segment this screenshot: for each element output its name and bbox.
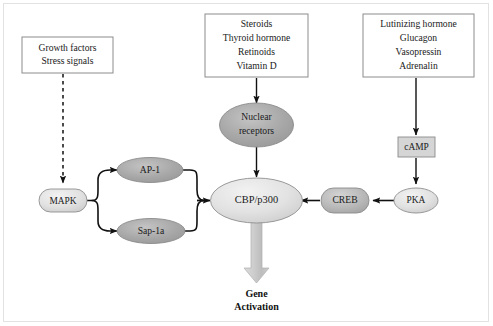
node-sap1a[interactable]: Sap-1a <box>117 219 185 244</box>
block-arrow-gene-activation <box>244 219 269 283</box>
steroids-line-3: Retinoids <box>238 46 275 57</box>
node-camp[interactable]: cAMP <box>398 137 435 157</box>
growth-factors-line-2: Stress signals <box>42 55 94 66</box>
steroids-line-1: Steroids <box>241 18 273 29</box>
node-camp-label: cAMP <box>404 142 428 152</box>
gene-activation-label: Gene Activation <box>234 288 279 312</box>
hormones-line-1: Lutinizing hormone <box>380 18 456 29</box>
node-pka[interactable]: PKA <box>394 188 438 213</box>
node-creb-label: CREB <box>332 194 357 205</box>
node-nuclear-receptors-label-line-2: receptors <box>239 125 274 136</box>
hormones-line-3: Vasopressin <box>396 46 442 57</box>
diagram-svg: Growth factors Stress signals Steroids T… <box>0 0 493 326</box>
gene-activation-line-2: Activation <box>234 301 279 312</box>
steroids-line-4: Vitamin D <box>236 60 276 71</box>
diagram-canvas: Growth factors Stress signals Steroids T… <box>0 0 493 326</box>
gene-activation-line-1: Gene <box>245 288 268 299</box>
stimulus-box-steroids: Steroids Thyroid hormone Retinoids Vitam… <box>205 14 308 77</box>
edge-mapk-to-sap1a <box>92 201 117 232</box>
node-pka-label: PKA <box>407 195 426 205</box>
node-nuclear-receptors[interactable]: Nuclear receptors <box>220 103 294 147</box>
node-creb[interactable]: CREB <box>321 188 369 213</box>
node-nuclear-receptors-label-line-1: Nuclear <box>241 111 272 122</box>
node-cbp-p300-label: CBP/p300 <box>235 194 278 205</box>
node-ap1-label: AP-1 <box>140 164 160 175</box>
edge-sap1a-to-cbp <box>185 201 204 232</box>
hormones-line-2: Glucagon <box>400 32 438 43</box>
edge-ap1-to-cbp <box>183 170 204 201</box>
node-ap1[interactable]: AP-1 <box>117 158 183 183</box>
hormones-line-4: Adrenalin <box>399 60 438 71</box>
node-sap1a-label: Sap-1a <box>138 225 165 236</box>
growth-factors-line-1: Growth factors <box>39 42 97 53</box>
stimulus-box-hormones: Lutinizing hormone Glucagon Vasopressin … <box>363 14 474 77</box>
stimulus-box-growth-factors: Growth factors Stress signals <box>22 37 113 73</box>
node-cbp-p300[interactable]: CBP/p300 <box>211 178 303 223</box>
node-mapk[interactable]: MAPK <box>39 189 87 212</box>
node-mapk-label: MAPK <box>49 196 76 206</box>
edge-mapk-to-ap1 <box>87 170 117 201</box>
steroids-line-2: Thyroid hormone <box>223 32 290 43</box>
